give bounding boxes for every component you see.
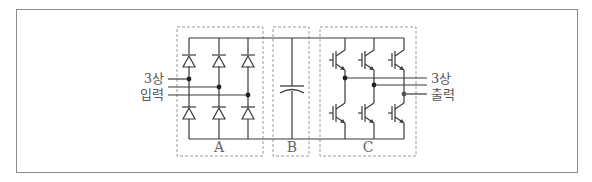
output-label-line1: 3상 (431, 71, 451, 86)
inverter-bridge (329, 38, 404, 139)
block-a-box (177, 27, 263, 156)
block-c-box (320, 27, 416, 156)
igbt-icon (329, 50, 345, 70)
junction-dot (246, 93, 251, 98)
diode-icon (182, 54, 196, 67)
igbt-icon (358, 50, 374, 70)
junction-dot (217, 85, 222, 90)
input-label-line2: 입력 (140, 87, 164, 102)
junction-dot (372, 83, 377, 88)
block-c-label: C (363, 139, 374, 155)
igbt-icon (329, 103, 345, 123)
diode-icon (241, 107, 255, 119)
output-lines (343, 76, 427, 97)
diode-icon (212, 107, 226, 119)
diode-icon (212, 54, 226, 67)
block-b-label: B (287, 139, 297, 155)
output-label-line2: 출력 (431, 87, 455, 102)
block-b-box (273, 27, 309, 156)
igbt-icon (388, 103, 404, 123)
input-lines (168, 77, 250, 98)
junction-dot (343, 76, 348, 81)
junction-dot (187, 77, 192, 82)
diode-icon (182, 107, 196, 119)
junction-dot (402, 92, 407, 97)
diode-icon (241, 54, 255, 67)
circuit-diagram: 3상 입력 3상 출력 A B C (0, 0, 592, 182)
igbt-icon (388, 50, 404, 70)
block-a-label: A (213, 139, 225, 155)
input-label-line1: 3상 (144, 71, 164, 86)
capacitor-icon (280, 38, 304, 139)
igbt-icon (358, 103, 374, 123)
